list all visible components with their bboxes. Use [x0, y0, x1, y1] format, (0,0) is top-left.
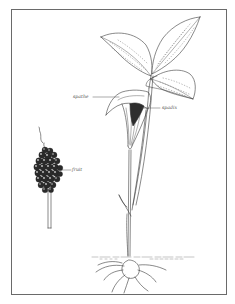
leaves: [101, 17, 200, 99]
corm-roots: [96, 260, 166, 293]
ground-line: [92, 257, 196, 259]
fruit-cluster: [34, 147, 63, 193]
spathe: [106, 90, 151, 149]
spadix: [130, 103, 144, 126]
plant-illustration: [0, 0, 235, 304]
label-spadix: spadix: [162, 106, 177, 111]
label-spathe: spathe: [73, 95, 89, 100]
label-fruit: fruit: [72, 168, 82, 173]
